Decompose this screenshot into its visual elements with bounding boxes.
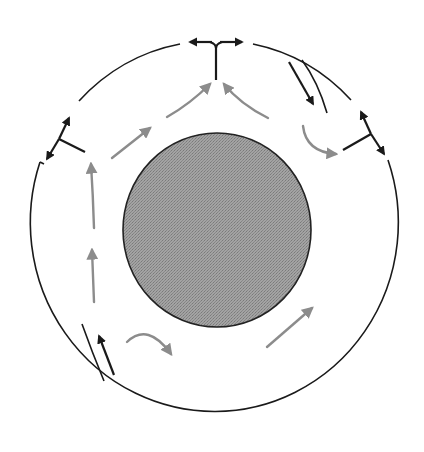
convection-arrow-upper-left-2 <box>167 84 210 117</box>
plate-motion-arrow-up <box>361 112 371 134</box>
convection-arrow-right-curve <box>303 126 336 154</box>
ridge-stem <box>343 134 371 150</box>
subduction-arrow <box>99 336 114 375</box>
subducting-slab <box>82 324 104 381</box>
convection-arrow-upper-right <box>224 84 268 118</box>
convection-arrow-left-upper <box>91 164 94 228</box>
surface-arc-left-short <box>40 162 44 164</box>
right-ridge <box>343 112 384 154</box>
mantle-convection-diagram <box>0 0 424 452</box>
bottom-left-subduction <box>82 324 114 381</box>
ridge-stem <box>59 139 85 152</box>
left-ridge <box>47 118 85 159</box>
convection-arrow-bottom-right <box>267 308 312 347</box>
subduction-arrow <box>289 62 313 104</box>
convection-arrow-upper-left-1 <box>112 128 150 158</box>
earth-core <box>123 133 311 327</box>
convection-arrow-bottom-curve <box>127 334 171 354</box>
surface-arc-top-right <box>253 44 351 100</box>
top-ridge <box>190 42 242 80</box>
surface-arc-top-left <box>79 44 180 101</box>
plate-motion-arrow-down <box>371 134 384 154</box>
plate-motion-arrow-down <box>47 139 59 159</box>
convection-arrow-left-lower <box>92 250 94 302</box>
top-right-subduction <box>289 60 327 113</box>
plate-motion-arrow-up <box>59 118 69 139</box>
